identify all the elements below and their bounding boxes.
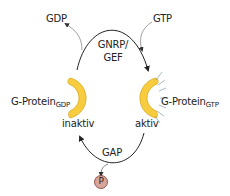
phosphate-label: P — [97, 177, 105, 186]
gef-label: GNRP/ GEF — [93, 40, 133, 63]
gdp-label: GDP — [46, 14, 67, 24]
gap-label: GAP — [102, 148, 122, 158]
g-protein-gtp-shape — [140, 78, 158, 118]
g-protein-gtp-label-main: G-Protein — [161, 96, 206, 107]
g-protein-gdp-label: G-ProteinGDP — [11, 97, 70, 107]
g-protein-gdp-label-sub: GDP — [56, 101, 70, 109]
g-protein-gtp-label: G-ProteinGTP — [161, 97, 219, 107]
gtp-binding-arrow — [140, 22, 152, 50]
gef-label-line1: GNRP/ — [93, 40, 133, 50]
inactive-label: inaktiv — [62, 119, 94, 129]
gdp-release-arrow — [66, 24, 82, 50]
active-label: aktiv — [135, 119, 159, 129]
gef-label-line2: GEF — [93, 53, 133, 63]
phosphate-release-arrow — [101, 164, 108, 175]
g-protein-gtp-label-sub: GTP — [206, 101, 219, 109]
gtp-label: GTP — [153, 14, 172, 24]
g-protein-gdp-label-main: G-Protein — [11, 96, 56, 107]
g-protein-gdp-shape — [68, 78, 86, 118]
